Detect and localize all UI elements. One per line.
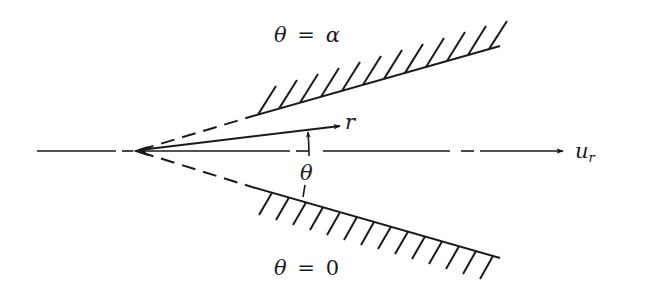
angle-tick-lower — [303, 185, 305, 197]
wedge-flow-diagram: θ = α θ = 0 r θ ur — [0, 0, 668, 297]
diagram-svg: θ = α θ = 0 r θ ur — [0, 0, 668, 297]
radial-coordinate-label: r — [345, 110, 357, 134]
upper-wall-hatching — [258, 21, 507, 115]
upper-wall — [140, 21, 507, 150]
angle-arrow — [308, 132, 309, 156]
angle-label: θ — [300, 161, 313, 185]
radial-ray — [140, 126, 340, 150]
upper-wall-label: θ = α — [274, 23, 340, 47]
velocity-label: ur — [575, 139, 596, 165]
lower-wall-label: θ = 0 — [274, 256, 339, 280]
lower-wall-hatching — [259, 193, 493, 279]
